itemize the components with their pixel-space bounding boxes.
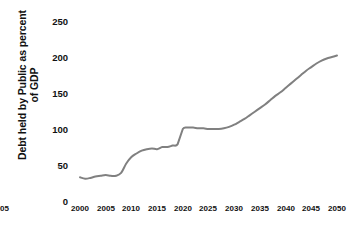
plot-area: [0, 0, 358, 231]
debt-to-gdp-line-chart: Debt held by Public as percent of GDP 25…: [0, 0, 358, 231]
debt-series-line: [80, 56, 337, 179]
